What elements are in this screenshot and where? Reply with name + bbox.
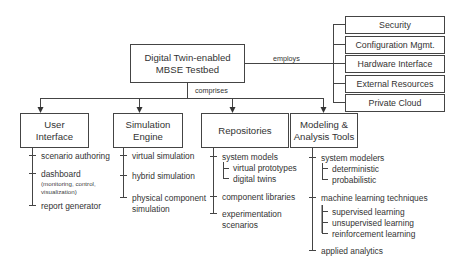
list-item: applied analytics (321, 246, 383, 256)
list-subitem: supervised learning (332, 207, 405, 217)
employs-security-label: Security (379, 20, 411, 31)
component-simulation-engine-box: Simulation Engine (113, 113, 183, 148)
list-item-note: (monitoring, control, (41, 180, 96, 188)
employs-cloud-box: Private Cloud (345, 94, 445, 112)
comprises-label: comprises (195, 86, 228, 95)
employs-security-box: Security (345, 16, 445, 34)
component-repositories-box: Repositories (201, 113, 289, 148)
list-item: system models (222, 152, 278, 162)
employs-configuration-box: Configuration Mgmt. (345, 36, 445, 54)
employs-external-box: External Resources (345, 75, 445, 93)
component-title-line2: Analysis Tools (294, 131, 355, 143)
component-title-line1: Repositories (218, 125, 271, 137)
list-item-note: visualization) (41, 188, 77, 196)
component-title-line1: Simulation (126, 119, 171, 131)
employs-hardware-label: Hardware Interface (358, 59, 433, 70)
employs-label: employs (273, 54, 300, 63)
component-title-line1: Modeling & (300, 119, 348, 131)
list-item: experimentation (222, 209, 282, 219)
list-item: virtual simulation (132, 151, 194, 161)
list-item: physical component (132, 193, 206, 203)
root-node-box: Digital Twin-enabled MBSE Testbed (130, 44, 245, 83)
component-user-interface-box: User Interface (20, 113, 89, 148)
list-subitem: digital twins (233, 174, 276, 184)
list-item: component libraries (222, 192, 295, 202)
component-title-line2: Engine (133, 131, 163, 143)
employs-hardware-box: Hardware Interface (345, 55, 445, 73)
list-item: hybrid simulation (132, 171, 195, 181)
component-title-line1: User (44, 119, 64, 131)
list-subitem: unsupervised learning (332, 218, 414, 228)
employs-cloud-label: Private Cloud (369, 98, 422, 109)
employs-external-label: External Resources (357, 79, 434, 90)
list-item: scenario authoring (41, 151, 110, 161)
list-subitem: reinforcement learning (332, 229, 415, 239)
list-subitem: probabilistic (332, 175, 376, 185)
list-subitem: virtual prototypes (233, 163, 297, 173)
list-item: scenarios (222, 220, 258, 230)
list-item: report generator (41, 201, 101, 211)
list-item: dashboard (41, 169, 81, 179)
list-item: machine learning techniques (321, 193, 428, 203)
list-subitem: deterministic (332, 164, 379, 174)
component-title-line2: Interface (36, 131, 73, 143)
list-item: simulation (132, 204, 170, 214)
root-title-line1: Digital Twin-enabled (144, 52, 230, 64)
component-modeling-analysis-box: Modeling & Analysis Tools (290, 113, 358, 148)
employs-configuration-label: Configuration Mgmt. (355, 40, 434, 51)
list-item: system modelers (321, 153, 384, 163)
root-title-line2: MBSE Testbed (156, 64, 219, 76)
